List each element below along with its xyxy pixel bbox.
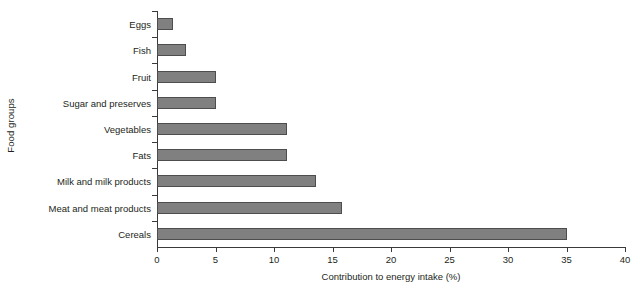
plot-area: EggsFishFruitSugar and preservesVegetabl… (157, 11, 625, 247)
y-axis-tick (152, 195, 157, 196)
bar (157, 44, 186, 56)
x-axis-tick (391, 247, 392, 252)
x-axis-tick (333, 247, 334, 252)
y-axis-tick (152, 90, 157, 91)
y-axis-tick (152, 221, 157, 222)
category-label: Fruit (132, 71, 151, 82)
bar-row: Fruit (157, 71, 625, 83)
category-label: Milk and milk products (57, 176, 151, 187)
x-axis-tick-label: 35 (561, 254, 572, 265)
bar-row: Sugar and preserves (157, 97, 625, 109)
bar-row: Meat and meat products (157, 202, 625, 214)
y-axis-tick (152, 63, 157, 64)
x-axis-tick-label: 10 (269, 254, 280, 265)
bar-row: Fats (157, 149, 625, 161)
x-axis-tick (157, 247, 158, 252)
x-axis-title: Contribution to energy intake (%) (157, 271, 625, 282)
category-label: Fish (133, 45, 151, 56)
bar (157, 149, 287, 161)
category-label: Vegetables (104, 124, 151, 135)
bar (157, 97, 216, 109)
category-label: Fats (133, 150, 151, 161)
x-axis-tick-label: 5 (213, 254, 218, 265)
category-label: Meat and meat products (49, 202, 151, 213)
y-axis-tick (152, 142, 157, 143)
bar-row: Milk and milk products (157, 175, 625, 187)
category-label: Cereals (118, 228, 151, 239)
category-label: Eggs (129, 19, 151, 30)
y-axis-tick (152, 168, 157, 169)
x-axis-tick (625, 247, 626, 252)
x-axis-tick-label: 20 (386, 254, 397, 265)
y-axis-title: Food groups (0, 0, 20, 250)
x-axis-tick-label: 0 (154, 254, 159, 265)
bar (157, 18, 173, 30)
x-axis-tick (508, 247, 509, 252)
bar (157, 71, 216, 83)
y-axis-title-text: Food groups (5, 98, 16, 152)
bar-chart-figure: Food groups EggsFishFruitSugar and prese… (0, 0, 640, 295)
y-axis-tick (152, 37, 157, 38)
bar (157, 123, 287, 135)
bar (157, 202, 342, 214)
bar-row: Cereals (157, 228, 625, 240)
x-axis-tick-label: 25 (444, 254, 455, 265)
x-axis-tick-label: 15 (327, 254, 338, 265)
bar (157, 175, 316, 187)
x-axis-tick (567, 247, 568, 252)
bar-row: Vegetables (157, 123, 625, 135)
bar-row: Fish (157, 44, 625, 56)
y-axis-tick (152, 11, 157, 12)
x-axis-tick-label: 30 (503, 254, 514, 265)
x-axis-tick (274, 247, 275, 252)
bar (157, 228, 567, 240)
x-axis-tick (216, 247, 217, 252)
bar-row: Eggs (157, 18, 625, 30)
y-axis-tick (152, 116, 157, 117)
x-axis-tick (450, 247, 451, 252)
x-axis-tick-label: 40 (620, 254, 631, 265)
category-label: Sugar and preserves (63, 97, 151, 108)
